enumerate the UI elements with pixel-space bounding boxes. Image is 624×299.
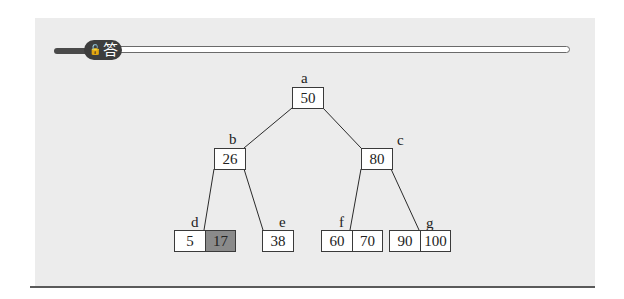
edge-c-f	[350, 169, 361, 230]
node-label-c: c	[397, 133, 404, 148]
node-label-d: d	[191, 215, 199, 230]
edge-a-b	[244, 108, 292, 148]
node-key: 38	[263, 231, 293, 251]
node-key: 26	[215, 149, 245, 169]
node-key: 90	[390, 231, 420, 251]
node-label-g: g	[426, 216, 434, 231]
tree-node-c: 80	[361, 148, 393, 170]
node-label-a: a	[301, 71, 308, 86]
node-key: 80	[362, 149, 392, 169]
node-key: 50	[293, 88, 323, 108]
tree-node-g: 90 100	[389, 230, 451, 252]
tree-edges	[0, 0, 624, 299]
tree-node-b: 26	[214, 148, 246, 170]
edge-c-g	[391, 169, 419, 230]
node-label-b: b	[229, 132, 237, 147]
tree-node-e: 38	[262, 230, 294, 252]
node-key: 60	[322, 231, 352, 251]
node-key: 70	[352, 231, 382, 251]
edge-b-d	[204, 169, 214, 230]
tree-node-d: 5 17	[174, 230, 236, 252]
node-label-e: e	[279, 215, 286, 230]
node-key: 100	[420, 231, 450, 251]
edge-a-c	[323, 108, 361, 148]
edge-b-e	[244, 169, 263, 230]
node-label-f: f	[339, 215, 344, 230]
node-key: 5	[175, 231, 205, 251]
tree-node-a: 50	[292, 87, 324, 109]
tree-node-f: 60 70	[321, 230, 383, 252]
node-key-highlighted: 17	[205, 231, 235, 251]
